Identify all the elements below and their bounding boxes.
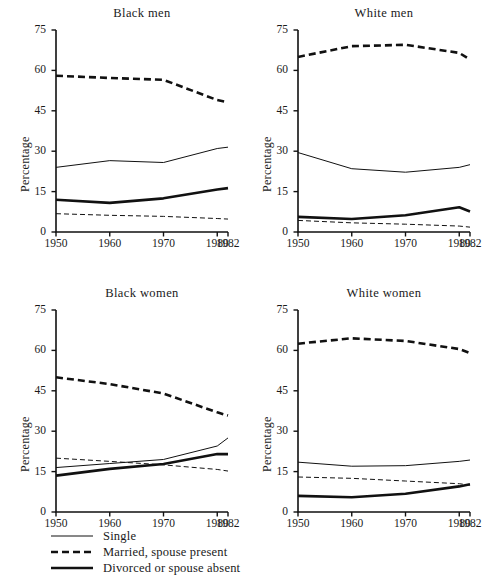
legend-key-icon xyxy=(50,562,94,574)
legend-label: Divorced or spouse absent xyxy=(103,561,240,576)
legend-item: Married, spouse present xyxy=(50,544,502,560)
y-tick-label: 30 xyxy=(24,144,46,156)
plot-area xyxy=(298,30,482,244)
panel-white-women: White womenPercentage0153045607519501960… xyxy=(252,286,482,534)
plot-area xyxy=(56,310,240,524)
panel-title: White men xyxy=(298,6,470,21)
series-line-divorced-or-spouse-absent xyxy=(56,188,228,203)
panel-title: Black women xyxy=(56,286,228,301)
axis-spines xyxy=(298,30,470,232)
y-tick-label: 30 xyxy=(24,424,46,436)
legend-label: Married, spouse present xyxy=(103,545,227,560)
series-line-married-spouse-present xyxy=(56,377,228,415)
series-line-widowed xyxy=(298,220,470,227)
y-tick-label: 15 xyxy=(24,185,46,197)
chart-figure: Black menPercentage015304560751950196019… xyxy=(0,0,502,586)
y-tick-label: 15 xyxy=(266,465,288,477)
y-tick-label: 45 xyxy=(24,104,46,116)
y-tick-label: 45 xyxy=(266,104,288,116)
legend-item: Divorced or spouse absent xyxy=(50,560,502,576)
series-line-single xyxy=(298,153,470,173)
y-tick-label: 30 xyxy=(266,144,288,156)
y-tick-label: 30 xyxy=(266,424,288,436)
y-tick-label: 15 xyxy=(24,465,46,477)
y-tick-label: 0 xyxy=(24,225,46,237)
plot-area xyxy=(298,310,482,524)
y-tick-label: 75 xyxy=(24,23,46,35)
y-tick-label: 75 xyxy=(266,303,288,315)
series-line-divorced-or-spouse-absent xyxy=(298,207,470,219)
y-tick-label: 45 xyxy=(24,384,46,396)
panel-title: Black men xyxy=(56,6,228,21)
legend-key-icon xyxy=(50,546,94,558)
series-line-widowed xyxy=(298,477,470,485)
y-tick-label: 60 xyxy=(266,343,288,355)
series-line-single xyxy=(56,438,228,468)
y-tick-label: 15 xyxy=(266,185,288,197)
y-tick-label: 45 xyxy=(266,384,288,396)
panel-title: White women xyxy=(298,286,470,301)
series-line-widowed xyxy=(56,214,228,219)
y-tick-label: 75 xyxy=(24,303,46,315)
panel-black-men: Black menPercentage015304560751950196019… xyxy=(10,6,240,254)
chart-legend: SingleMarried, spouse presentDivorced or… xyxy=(0,528,502,576)
y-tick-label: 60 xyxy=(24,343,46,355)
series-line-widowed xyxy=(56,458,228,471)
series-line-married-spouse-present xyxy=(298,45,470,60)
y-tick-label: 60 xyxy=(266,63,288,75)
series-line-divorced-or-spouse-absent xyxy=(56,454,228,476)
panel-black-women: Black womenPercentage0153045607519501960… xyxy=(10,286,240,534)
y-tick-label: 75 xyxy=(266,23,288,35)
series-line-married-spouse-present xyxy=(56,76,228,102)
series-line-single xyxy=(56,147,228,167)
plot-area xyxy=(56,30,240,244)
axis-spines xyxy=(56,310,228,512)
series-line-single xyxy=(298,460,470,466)
series-line-married-spouse-present xyxy=(298,338,470,353)
legend-label: Single xyxy=(103,529,136,544)
legend-key-icon xyxy=(50,530,94,542)
y-tick-label: 0 xyxy=(266,225,288,237)
legend-item: Single xyxy=(50,528,502,544)
y-tick-label: 60 xyxy=(24,63,46,75)
y-tick-label: 0 xyxy=(24,505,46,517)
y-tick-label: 0 xyxy=(266,505,288,517)
panel-white-men: White menPercentage015304560751950196019… xyxy=(252,6,482,254)
series-line-divorced-or-spouse-absent xyxy=(298,484,470,497)
